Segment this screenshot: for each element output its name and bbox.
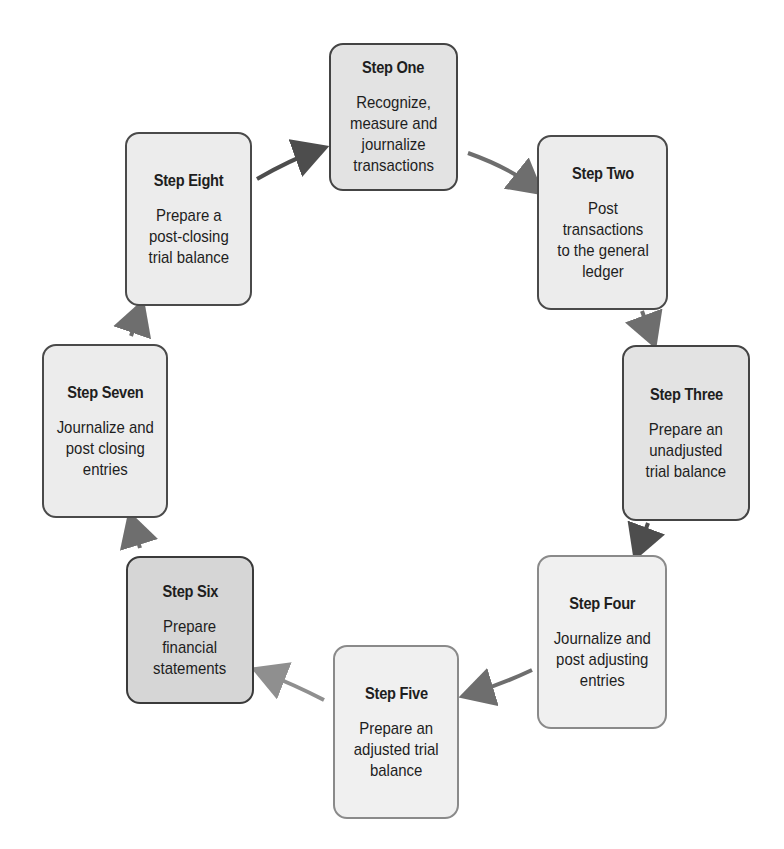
- step-three-description: Prepare an unadjusted trial balance: [646, 419, 727, 482]
- accounting-cycle-diagram: Step One Recognize, measure and journali…: [0, 0, 784, 849]
- step-three-box: Step Three Prepare an unadjusted trial b…: [622, 345, 750, 521]
- arrow-step-five-to-six: [262, 672, 324, 700]
- step-six-title: Step Six: [162, 582, 218, 602]
- step-seven-title: Step Seven: [67, 383, 143, 403]
- step-two-title: Step Two: [572, 164, 634, 184]
- arrow-step-eight-to-one: [257, 150, 318, 179]
- step-one-box: Step One Recognize, measure and journali…: [329, 43, 458, 191]
- step-two-description: Post transactions to the general ledger: [557, 198, 648, 282]
- step-six-description: Prepare financial statements: [153, 616, 226, 679]
- step-seven-box: Step Seven Journalize and post closing e…: [42, 344, 168, 518]
- step-eight-title: Step Eight: [154, 171, 224, 191]
- step-eight-box: Step Eight Prepare a post-closing trial …: [125, 132, 252, 306]
- step-four-description: Journalize and post adjusting entries: [553, 628, 650, 691]
- step-one-description: Recognize, measure and journalize transa…: [350, 92, 437, 176]
- arrow-step-seven-to-eight: [131, 310, 140, 336]
- step-four-box: Step Four Journalize and post adjusting …: [537, 555, 667, 729]
- arrow-step-three-to-four: [638, 523, 648, 550]
- step-five-description: Prepare an adjusted trial balance: [354, 718, 439, 781]
- arrow-step-six-to-seven: [132, 522, 140, 548]
- step-five-title: Step Five: [365, 684, 428, 704]
- arrow-step-two-to-three: [642, 311, 652, 338]
- arrow-step-four-to-five: [470, 670, 532, 694]
- step-four-title: Step Four: [569, 594, 635, 614]
- step-seven-description: Journalize and post closing entries: [56, 417, 153, 480]
- step-two-box: Step Two Post transactions to the genera…: [537, 135, 668, 310]
- step-eight-description: Prepare a post-closing trial balance: [148, 205, 229, 268]
- step-three-title: Step Three: [650, 385, 723, 405]
- step-six-box: Step Six Prepare financial statements: [126, 556, 254, 704]
- step-five-box: Step Five Prepare an adjusted trial bala…: [333, 645, 459, 819]
- arrow-step-one-to-two: [468, 153, 535, 188]
- step-one-title: Step One: [362, 58, 424, 78]
